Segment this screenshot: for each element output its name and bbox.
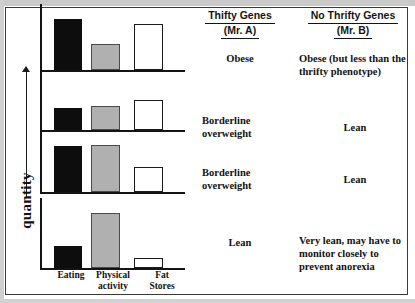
x-tick-fat-stores: Fat Stores: [140, 270, 184, 292]
bar-panel-row-3: [40, 128, 185, 194]
outcome-no-thrifty-row-1: Obese (but less than the thrifty phenoty…: [299, 52, 411, 78]
outcome-thrifty-row-4: Lean: [190, 236, 290, 249]
outcome-no-thrifty-row-2: Lean: [299, 121, 411, 134]
bar-panel-row-4: [40, 198, 185, 270]
bar-physical-activity: [91, 44, 120, 70]
bar-fat-stores: [134, 258, 163, 268]
column-header-thrifty-genes: Thifty Genes (Mr. A): [190, 9, 290, 39]
bar-fat-stores: [134, 24, 163, 70]
bar-eating: [54, 246, 82, 268]
outcome-thrifty-row-1: Obese: [190, 52, 290, 65]
column-header-no-thrifty-genes: No Thrifty Genes (Mr. B): [296, 9, 410, 39]
panel-y-axis-line: [40, 4, 42, 70]
outcome-no-thrifty-row-3: Lean: [299, 173, 411, 186]
bar-panel-row-2: [40, 70, 185, 132]
column-header-no-thrifty-subtitle: (Mr. B): [334, 24, 373, 39]
bar-physical-activity: [91, 213, 120, 268]
bar-eating: [54, 19, 82, 70]
outcome-thrifty-row-3: Borderline overweight: [190, 166, 290, 192]
y-axis-label: quantity: [18, 161, 35, 241]
y-axis-quantity: quantity: [14, 66, 40, 266]
scan-artifact-left: [0, 0, 4, 303]
column-header-thrifty-title: Thifty Genes: [205, 9, 275, 24]
x-axis-tick-labels: Eating Physical activity Fat Stores: [40, 270, 190, 298]
bar-fat-stores: [134, 167, 163, 192]
column-header-thrifty-subtitle: (Mr. A): [221, 24, 259, 39]
bar-eating: [54, 108, 82, 130]
thrifty-gene-phenotype-figure: Thifty Genes (Mr. A) No Thrifty Genes (M…: [0, 0, 415, 303]
bar-physical-activity: [91, 106, 120, 130]
column-header-no-thrifty-title: No Thrifty Genes: [308, 9, 399, 24]
outcome-no-thrifty-row-4: Very lean, may have to monitor closely t…: [299, 234, 411, 273]
bar-panel-row-1: [40, 4, 185, 72]
x-tick-physical-activity: Physical activity: [86, 270, 140, 292]
panel-y-axis-line: [40, 70, 42, 130]
bar-eating: [54, 146, 82, 192]
outcome-thrifty-row-2: Borderline overweight: [190, 114, 290, 140]
bar-physical-activity: [91, 145, 120, 192]
scan-artifact-bottom: [0, 299, 415, 303]
panel-y-axis-line: [40, 198, 42, 268]
panel-x-axis-line: [40, 192, 185, 194]
panel-y-axis-line: [40, 128, 42, 192]
bar-fat-stores: [134, 100, 163, 130]
